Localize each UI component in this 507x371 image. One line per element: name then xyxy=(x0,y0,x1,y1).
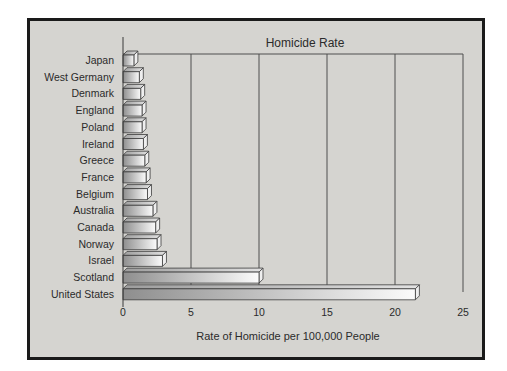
bar-front-face xyxy=(123,189,147,200)
bar-france xyxy=(123,168,150,183)
bar-front-face xyxy=(123,205,153,216)
tick-label-10: 10 xyxy=(253,306,265,318)
bar-top-face xyxy=(123,268,263,272)
tick-label-0: 0 xyxy=(120,306,126,318)
bar-england xyxy=(123,101,146,116)
bar-front-face xyxy=(123,255,162,266)
category-label-belgium: Belgium xyxy=(76,188,114,200)
bars-layer xyxy=(123,51,419,300)
tick-label-25: 25 xyxy=(457,306,469,318)
bar-top-face xyxy=(123,201,157,205)
category-label-norway: Norway xyxy=(78,238,114,250)
bar-top-face xyxy=(123,285,419,289)
bar-norway xyxy=(123,235,161,250)
category-label-france: France xyxy=(81,171,114,183)
category-label-poland: Poland xyxy=(81,121,114,133)
bar-front-face xyxy=(123,122,142,133)
bar-front-face xyxy=(123,172,146,183)
bar-front-face xyxy=(123,155,145,166)
bar-front-face xyxy=(123,105,142,116)
category-label-scotland: Scotland xyxy=(73,271,114,283)
bar-top-face xyxy=(123,251,166,255)
bar-front-face xyxy=(123,55,134,66)
tick-label-5: 5 xyxy=(188,306,194,318)
bar-west-germany xyxy=(123,68,143,83)
bar-scotland xyxy=(123,268,263,283)
bar-denmark xyxy=(123,84,145,99)
bar-front-face xyxy=(123,222,156,233)
category-label-denmark: Denmark xyxy=(71,87,114,99)
bar-poland xyxy=(123,118,146,133)
chart-title: Homicide Rate xyxy=(266,36,345,50)
bar-top-face xyxy=(123,185,151,189)
bar-front-face xyxy=(123,72,139,83)
category-label-australia: Australia xyxy=(73,204,114,216)
x-axis-label: Rate of Homicide per 100,000 People xyxy=(196,330,379,342)
category-labels-layer: JapanWest GermanyDenmarkEnglandPolandIre… xyxy=(44,54,115,300)
category-label-canada: Canada xyxy=(77,221,114,233)
category-label-greece: Greece xyxy=(80,154,115,166)
tick-labels-layer: 0510152025 xyxy=(120,306,469,318)
bar-united-states xyxy=(123,285,419,300)
bar-greece xyxy=(123,151,149,166)
bar-front-face xyxy=(123,239,157,250)
bar-canada xyxy=(123,218,160,233)
bar-top-face xyxy=(123,235,161,239)
homicide-rate-bar-chart: 0510152025 JapanWest GermanyDenmarkEngla… xyxy=(0,0,507,371)
bar-front-face xyxy=(123,139,143,150)
category-label-england: England xyxy=(75,104,114,116)
bar-japan xyxy=(123,51,138,66)
bar-front-face xyxy=(123,88,141,99)
bar-front-face xyxy=(123,272,259,283)
bar-top-face xyxy=(123,168,150,172)
gridlines-layer xyxy=(123,54,463,292)
category-label-israel: Israel xyxy=(88,254,114,266)
bar-belgium xyxy=(123,185,151,200)
category-label-united-states: United States xyxy=(51,288,114,300)
tick-label-15: 15 xyxy=(321,306,333,318)
category-label-west-germany: West Germany xyxy=(44,71,115,83)
category-label-ireland: Ireland xyxy=(82,138,114,150)
category-label-japan: Japan xyxy=(85,54,114,66)
bar-ireland xyxy=(123,135,147,150)
tick-label-20: 20 xyxy=(389,306,401,318)
bar-australia xyxy=(123,201,157,216)
bar-top-face xyxy=(123,218,160,222)
bar-israel xyxy=(123,251,166,266)
bar-front-face xyxy=(123,289,415,300)
